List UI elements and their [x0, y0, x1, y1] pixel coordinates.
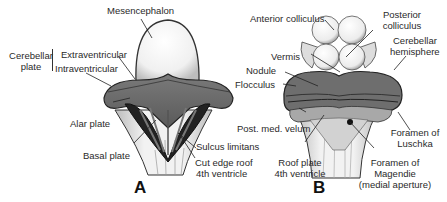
- label-basal-plate: Basal plate: [83, 150, 130, 161]
- label-cerebellar-plate-1: Cerebellar: [4, 50, 58, 61]
- label-vermis: Vermis: [271, 51, 300, 62]
- label-intraventricular: Intraventricular: [55, 63, 118, 74]
- panel-letter-a: A: [134, 178, 146, 198]
- cerebellar-plate-brace: [52, 49, 53, 71]
- label-alar-plate: Alar plate: [70, 118, 110, 129]
- panel-b-illustration: [284, 16, 402, 178]
- panel-letter-b: B: [313, 178, 325, 198]
- posterior-colliculus-left: [313, 44, 339, 70]
- anterior-colliculus-right: [338, 16, 366, 44]
- label-foramen-luschka-1: Foramen of: [385, 127, 445, 138]
- cerebellum-shape: [284, 72, 402, 113]
- label-cerebellar-hemisphere-2: hemisphere: [390, 46, 440, 57]
- label-post-med-velum: Post. med. velum: [237, 123, 310, 134]
- label-sulcus-limitans: Sulcus limitans: [196, 141, 259, 152]
- label-roof-plate-1: Roof plate: [270, 157, 330, 168]
- label-flocculus: Flocculus: [235, 79, 275, 90]
- label-cerebellar-plate-2: plate: [4, 61, 58, 72]
- label-foramen-luschka-2: Luschka: [385, 138, 445, 149]
- posterior-colliculus-right: [339, 44, 365, 70]
- label-posterior-colliculus-1: Posterior: [372, 9, 432, 20]
- label-foramen-magendie-2: Magendie: [355, 168, 435, 179]
- label-cut-edge-2: 4th ventricle: [196, 168, 247, 179]
- label-posterior-colliculus-2: colliculus: [372, 20, 432, 31]
- label-mesencephalon: Mesencephalon: [107, 5, 174, 16]
- mesencephalon-shape: [136, 20, 199, 82]
- label-foramen-magendie-1: Foramen of: [355, 157, 435, 168]
- label-anterior-colliculus: Anterior colliculus: [250, 13, 324, 24]
- label-cut-edge-1: Cut edge roof: [195, 157, 253, 168]
- label-nodule: Nodule: [246, 65, 276, 76]
- label-cerebellar-hemisphere-1: Cerebellar: [393, 35, 437, 46]
- label-foramen-magendie-3: (medial aperture): [350, 179, 440, 190]
- label-extraventricular: Extraventricular: [61, 49, 127, 60]
